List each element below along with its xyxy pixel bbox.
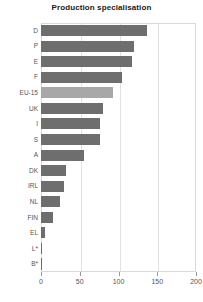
y-label-Bstar: B* (0, 260, 38, 268)
y-label-DK: DK (0, 167, 38, 175)
bar-Lstar (41, 243, 42, 254)
bar-chart: Production specialisation DPEFEU-15UKISA… (0, 0, 203, 302)
y-axis-labels: DPEFEU-15UKISADKIRLNLFINELL*B* (0, 23, 38, 272)
y-label-I: I (0, 120, 38, 128)
tick-50 (80, 272, 81, 276)
tick-100 (119, 272, 120, 276)
bar-F (41, 72, 122, 83)
bar-I (41, 118, 100, 129)
x-label-200: 200 (181, 278, 203, 285)
bar-UK (41, 103, 103, 114)
y-label-P: P (0, 42, 38, 50)
y-label-IRL: IRL (0, 182, 38, 190)
tick-0 (41, 272, 42, 276)
bar-DK (41, 165, 66, 176)
y-label-S: S (0, 136, 38, 144)
y-label-D: D (0, 27, 38, 35)
y-label-E: E (0, 58, 38, 66)
bar-IRL (41, 181, 64, 192)
bar-EU15 (41, 87, 113, 98)
bar-D (41, 25, 147, 36)
bars-layer (41, 23, 196, 272)
bar-EL (41, 227, 45, 238)
y-label-EL: EL (0, 229, 38, 237)
x-label-100: 100 (104, 278, 134, 285)
bar-Bstar (41, 258, 42, 269)
y-label-NL: NL (0, 198, 38, 206)
chart-title: Production specialisation (0, 3, 203, 12)
y-label-FIN: FIN (0, 214, 38, 222)
x-label-0: 0 (26, 278, 56, 285)
x-label-150: 150 (142, 278, 172, 285)
tick-150 (157, 272, 158, 276)
x-axis-labels: 050100150200 (0, 278, 203, 290)
y-label-Lstar: L* (0, 245, 38, 253)
bar-E (41, 56, 132, 67)
y-label-EU15: EU-15 (0, 89, 38, 97)
bar-A (41, 150, 84, 161)
y-label-F: F (0, 73, 38, 81)
bar-S (41, 134, 100, 145)
tick-200 (196, 272, 197, 276)
y-label-UK: UK (0, 105, 38, 113)
bar-P (41, 41, 134, 52)
bar-NL (41, 196, 60, 207)
y-label-A: A (0, 151, 38, 159)
bar-FIN (41, 212, 53, 223)
x-label-50: 50 (65, 278, 95, 285)
